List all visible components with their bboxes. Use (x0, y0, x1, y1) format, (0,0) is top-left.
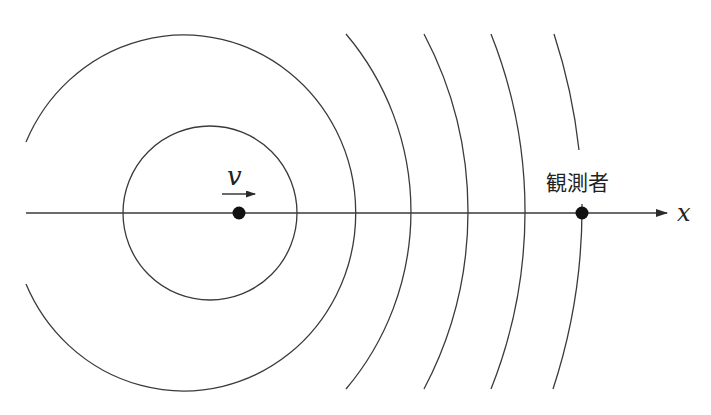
wavefront-arc-4-upper (554, 34, 579, 150)
wavefront-arc-2 (424, 34, 468, 389)
wavefront-arc-4-lower (553, 204, 582, 389)
axis-label-x: x (677, 199, 691, 227)
observer-dot (576, 207, 589, 220)
doppler-diagram: x v 観測者 (0, 0, 711, 415)
velocity-label: v (227, 161, 242, 191)
source-dot (233, 207, 246, 220)
wavefront-arc-3 (491, 34, 525, 389)
observer-label: 観測者 (546, 171, 609, 195)
